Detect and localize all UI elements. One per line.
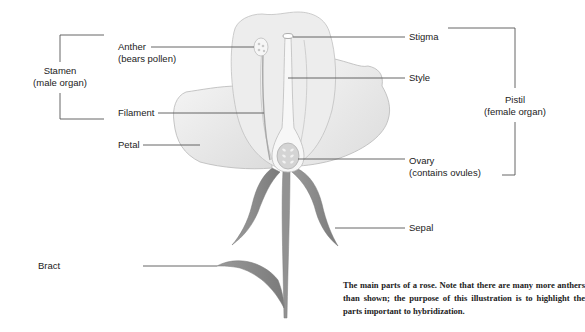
ovary-label: Ovary (contains ovules) xyxy=(409,155,481,179)
stem xyxy=(282,170,290,318)
sepal-left xyxy=(232,168,280,245)
rose-diagram: Anther (bears pollen) Filament Petal Bra… xyxy=(0,0,585,332)
anther xyxy=(254,38,268,56)
bract-leaf xyxy=(217,261,284,308)
stigma xyxy=(283,34,293,39)
anther-label: Anther (bears pollen) xyxy=(118,41,176,65)
figure-caption: The main parts of a rose. Note that ther… xyxy=(343,279,585,318)
bract-label: Bract xyxy=(38,260,60,272)
stamen-group-label: Stamen (male organ) xyxy=(28,65,92,89)
pistil-group-label: Pistil (female organ) xyxy=(480,94,550,118)
style-label: Style xyxy=(409,72,430,84)
sepal-label: Sepal xyxy=(409,222,433,234)
ovary xyxy=(277,143,299,169)
petal-label: Petal xyxy=(118,139,140,151)
stigma-label: Stigma xyxy=(409,31,439,43)
sepal-right xyxy=(292,168,338,246)
filament-label: Filament xyxy=(118,107,154,119)
